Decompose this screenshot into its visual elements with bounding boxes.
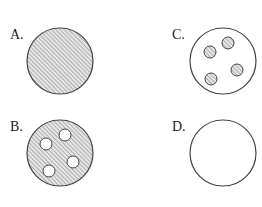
inner-hatched-circle bbox=[231, 64, 243, 76]
inner-white-hole bbox=[40, 138, 52, 150]
option-d-figure bbox=[190, 120, 256, 186]
inner-hatched-circle bbox=[205, 73, 217, 85]
option-d-label: D. bbox=[172, 119, 186, 135]
diagram-canvas bbox=[0, 0, 262, 207]
option-b-figure bbox=[27, 120, 93, 186]
option-c-figure bbox=[190, 28, 256, 94]
hatched-circle-a bbox=[27, 28, 93, 94]
option-c-label: C. bbox=[172, 27, 185, 43]
inner-hatched-circle bbox=[204, 46, 216, 58]
option-a-figure bbox=[27, 28, 93, 94]
inner-white-hole bbox=[59, 129, 71, 141]
option-b-label: B. bbox=[10, 119, 23, 135]
option-a-label: A. bbox=[10, 27, 24, 43]
hatched-circle-b bbox=[27, 120, 93, 186]
inner-hatched-circle bbox=[222, 37, 234, 49]
outer-circle-c bbox=[190, 28, 256, 94]
inner-white-hole bbox=[67, 156, 79, 168]
empty-circle-d bbox=[190, 120, 256, 186]
inner-white-hole bbox=[43, 165, 55, 177]
